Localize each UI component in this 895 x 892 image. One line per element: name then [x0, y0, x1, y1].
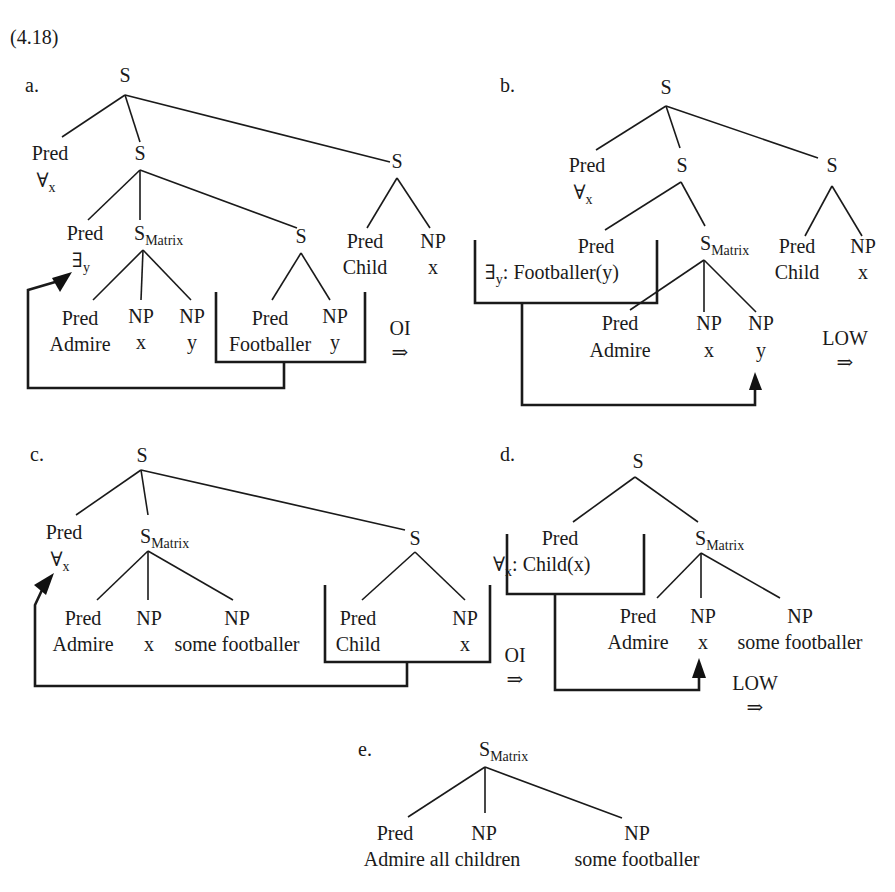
- node-label: S: [676, 154, 687, 176]
- panel-label: c.: [30, 443, 44, 465]
- tree-branch: [141, 250, 143, 300]
- terminal-label: y: [330, 331, 340, 354]
- terminal-label: x: [136, 331, 146, 353]
- node-label: SMatrix: [700, 232, 749, 258]
- tree-node: PredChild: [343, 230, 387, 278]
- tree-node: NPsome footballer: [738, 605, 863, 653]
- node-label: Pred: [542, 527, 579, 549]
- tree-branch: [362, 552, 415, 600]
- terminal-label: Admire all children: [364, 848, 521, 870]
- tree-branch: [408, 767, 485, 817]
- tree-branch: [125, 95, 390, 162]
- tree-branch: [701, 553, 780, 598]
- node-label: NP: [136, 607, 162, 629]
- tree-node: S: [134, 142, 145, 164]
- terminal-label: Child: [336, 633, 380, 655]
- node-label: Pred: [578, 235, 615, 257]
- tree-branch: [148, 551, 233, 600]
- node-label: NP: [690, 605, 716, 627]
- tree-branch: [573, 477, 635, 522]
- tree-panel-b: b.SPred∀xSSPred∃y: Footballer(y)SMatrixP…: [475, 74, 876, 405]
- quantifier-restrictor: ∃y: Footballer(y): [485, 261, 619, 287]
- tree-node: PredAdmire: [49, 307, 110, 355]
- quantifier-label: ∀x: [50, 548, 69, 574]
- tree-panel-e: e.SMatrixPredAdmire all childrenNPNPsome…: [358, 738, 700, 870]
- tree-branch: [62, 95, 125, 137]
- tree-node: Pred∀x: [46, 521, 83, 574]
- tree-node: PredAdmire: [589, 312, 650, 361]
- tree-node: Pred∃y: [67, 222, 104, 275]
- tree-node: S: [826, 154, 837, 176]
- node-label: Pred: [602, 312, 639, 334]
- tree-node: S: [295, 225, 306, 247]
- tree-branch: [605, 182, 681, 230]
- tree-node: NPx: [452, 607, 478, 655]
- tree-branch: [301, 253, 330, 300]
- double-arrow-icon: ⇒: [507, 668, 524, 690]
- tree-node: NPx: [696, 312, 722, 361]
- tree-branch: [141, 470, 405, 530]
- tree-panel-c: c.SPred∀xSMatrixSPredAdmireNPxNPsome foo…: [30, 443, 526, 690]
- node-label: S: [119, 64, 130, 86]
- node-label: NP: [624, 822, 650, 844]
- arrowhead-icon: [749, 372, 762, 390]
- terminal-label: x: [460, 633, 470, 655]
- node-label: S: [826, 154, 837, 176]
- quantifier-label: ∀x: [36, 169, 55, 195]
- node-label: Pred: [779, 235, 816, 257]
- tree-node: Pred∀x: [32, 142, 69, 195]
- tree-branch: [666, 106, 818, 158]
- transformation-label: LOW: [822, 327, 868, 349]
- tree-branch: [141, 470, 148, 515]
- node-label: NP: [128, 305, 154, 327]
- transformation-label: OI: [504, 644, 525, 666]
- tree-node: NPx: [128, 305, 154, 353]
- terminal-label: y: [756, 339, 766, 362]
- arrowhead-icon: [692, 658, 706, 678]
- tree-node: PredAdmire all children: [364, 822, 521, 870]
- arrowhead-icon: [34, 573, 54, 595]
- tree-node: NPy: [322, 305, 348, 354]
- tree-node: NP: [471, 822, 497, 844]
- tree-node: S: [136, 444, 147, 466]
- node-label: Pred: [65, 607, 102, 629]
- arrowhead-icon: [52, 272, 72, 292]
- terminal-label: Admire: [52, 633, 113, 655]
- terminal-label: Footballer: [229, 333, 312, 355]
- tree-node: Pred∀x: [569, 154, 606, 207]
- terminal-label: x: [858, 261, 868, 283]
- panel-label: e.: [358, 738, 372, 760]
- node-label: Pred: [569, 154, 606, 176]
- node-label: SMatrix: [140, 525, 189, 551]
- tree-node: NPy: [179, 305, 205, 354]
- terminal-label: Admire: [607, 631, 668, 653]
- tree-branch: [805, 186, 832, 236]
- node-label: NP: [452, 607, 478, 629]
- tree-node: SMatrix: [695, 527, 744, 553]
- node-label: NP: [787, 605, 813, 627]
- node-label: Pred: [32, 142, 69, 164]
- tree-panel-a: a.SPred∀xSSPred∃ySMatrixSPredChildNPxPre…: [25, 64, 446, 388]
- terminal-label: x: [698, 631, 708, 653]
- tree-node: S: [660, 76, 671, 98]
- tree-branch: [88, 170, 140, 220]
- tree-node: NPx: [690, 605, 716, 653]
- tree-branch: [666, 106, 680, 148]
- tree-diagram-canvas: (4.18) a.SPred∀xSSPred∃ySMatrixSPredChil…: [0, 0, 895, 892]
- tree-node: SMatrix: [140, 525, 189, 551]
- tree-branch: [76, 470, 141, 515]
- transformation-label: LOW: [732, 672, 778, 694]
- node-label: NP: [420, 230, 446, 252]
- tree-node: NPsome footballer: [175, 607, 300, 655]
- tree-node: S: [119, 64, 130, 86]
- node-label: NP: [224, 607, 250, 629]
- tree-branch: [485, 767, 622, 818]
- terminal-label: x: [428, 256, 438, 278]
- node-label: SMatrix: [479, 738, 528, 764]
- node-label: Pred: [252, 307, 289, 329]
- terminal-label: some footballer: [575, 848, 700, 870]
- tree-branch: [415, 552, 465, 600]
- node-label: S: [295, 225, 306, 247]
- tree-node: S: [409, 527, 420, 549]
- tree-branch: [140, 170, 297, 228]
